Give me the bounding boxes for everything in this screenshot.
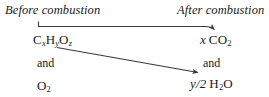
conjunction-right: and: [203, 56, 220, 71]
fuel-subscript-z: z: [69, 38, 72, 48]
formula-oxygen: O2: [37, 78, 51, 94]
formula-fuel: CxHyOz: [33, 32, 72, 48]
carbon-path-arrow: [39, 22, 215, 30]
fuel-element-carbon: C: [33, 32, 42, 47]
formula-carbon-dioxide: x CO2: [200, 32, 232, 48]
formula-water: y/2 H2O: [190, 76, 233, 92]
combustion-diagram: Before combustion After combustion CxHyO…: [0, 0, 269, 97]
co2-element-oxygen: O: [218, 32, 228, 47]
oxygen-subscript-2: 2: [47, 84, 51, 94]
co2-coefficient-x: x: [200, 32, 206, 47]
water-coefficient: y/2: [190, 76, 206, 91]
water-element-hydrogen: H: [209, 76, 219, 91]
fuel-element-hydrogen: H: [46, 32, 56, 47]
oxygen-element: O: [37, 78, 47, 93]
conjunction-left: and: [37, 56, 54, 71]
hydrogen-path-arrow: [57, 48, 198, 73]
fuel-element-oxygen: O: [59, 32, 69, 47]
water-element-oxygen: O: [223, 76, 233, 91]
co2-element-carbon: C: [209, 32, 218, 47]
co2-subscript-2: 2: [227, 38, 231, 48]
